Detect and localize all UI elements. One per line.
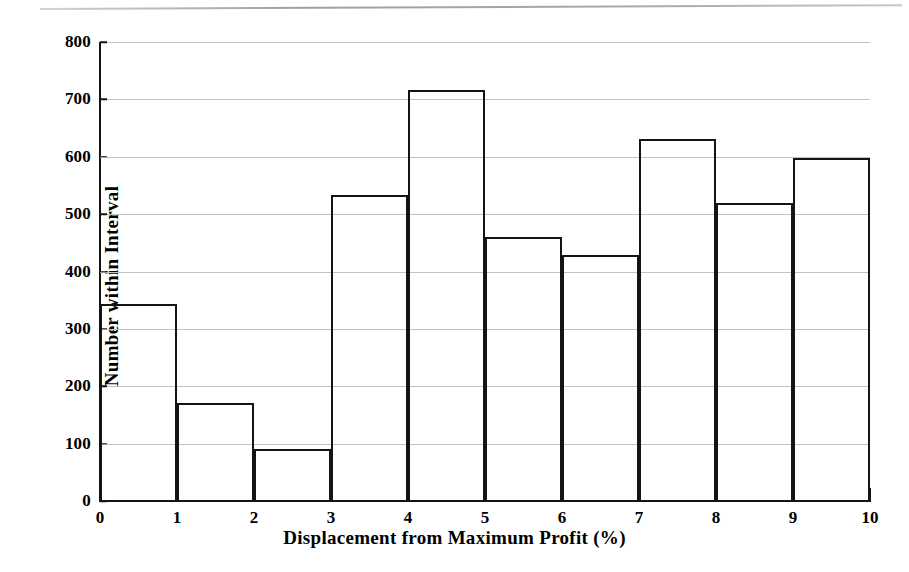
histogram-bar — [100, 304, 177, 501]
x-tick-mark — [561, 488, 563, 501]
y-tick-mark — [100, 271, 107, 273]
y-tick-mark — [100, 156, 107, 158]
y-tick-label: 0 — [82, 491, 91, 511]
histogram-bar — [793, 158, 870, 501]
plot-area: 0100200300400500600700800012345678910 — [100, 42, 870, 501]
x-tick-label: 1 — [173, 508, 182, 528]
x-tick-label: 9 — [789, 508, 798, 528]
histogram-bar — [331, 195, 408, 501]
x-tick-label: 6 — [558, 508, 567, 528]
page-scan-rule — [40, 4, 902, 10]
histogram-bar — [639, 139, 716, 501]
y-tick-mark — [100, 41, 107, 43]
x-tick-mark — [253, 488, 255, 501]
histogram-bar — [562, 255, 639, 501]
y-tick-label: 500 — [65, 204, 91, 224]
x-tick-mark — [99, 488, 101, 501]
x-tick-mark — [407, 488, 409, 501]
y-tick-label: 200 — [65, 376, 91, 396]
y-tick-label: 100 — [65, 434, 91, 454]
x-tick-label: 5 — [481, 508, 490, 528]
x-tick-label: 8 — [712, 508, 721, 528]
x-tick-mark — [715, 488, 717, 501]
gridline — [100, 42, 870, 43]
y-tick-label: 300 — [65, 319, 91, 339]
x-tick-mark — [869, 488, 871, 501]
y-tick-label: 400 — [65, 262, 91, 282]
y-tick-label: 600 — [65, 147, 91, 167]
histogram-bar — [408, 90, 485, 501]
gridline — [100, 99, 870, 100]
x-tick-mark — [638, 488, 640, 501]
histogram-bar — [716, 203, 793, 501]
x-tick-mark — [792, 488, 794, 501]
histogram-bar — [254, 449, 331, 501]
x-tick-label: 10 — [862, 508, 879, 528]
x-tick-label: 3 — [327, 508, 336, 528]
x-tick-mark — [176, 488, 178, 501]
y-tick-mark — [100, 99, 107, 101]
histogram-bar — [485, 237, 562, 501]
histogram-figure: Number within Interval 01002003004005006… — [0, 0, 909, 572]
x-tick-label: 0 — [96, 508, 105, 528]
x-axis-title: Displacement from Maximum Profit (%) — [0, 527, 909, 549]
gridline — [100, 157, 870, 158]
x-tick-mark — [484, 488, 486, 501]
y-tick-label: 800 — [65, 32, 91, 52]
histogram-bar — [177, 403, 254, 501]
x-tick-label: 7 — [635, 508, 644, 528]
y-tick-label: 700 — [65, 89, 91, 109]
x-tick-label: 4 — [404, 508, 413, 528]
x-tick-mark — [330, 488, 332, 501]
x-tick-label: 2 — [250, 508, 259, 528]
y-tick-mark — [100, 213, 107, 215]
